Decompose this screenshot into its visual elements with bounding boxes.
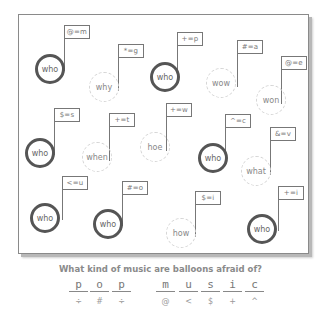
code-flag: @=e xyxy=(281,56,307,70)
answer-letter: p xyxy=(75,278,82,291)
balloon-decoy: wow xyxy=(206,68,236,98)
flag-pole xyxy=(278,199,279,231)
cipher-symbol: < xyxy=(185,297,192,306)
code-flag: #=a xyxy=(237,40,263,54)
answer-letter: s xyxy=(207,278,214,291)
cipher-symbol: @ xyxy=(162,297,170,306)
code-flag: ^=c xyxy=(225,114,251,128)
cipher-symbol: ^ xyxy=(251,297,258,306)
answer-slot: p÷ xyxy=(68,278,89,306)
answer-slot: i+ xyxy=(222,278,243,306)
code-flag: +=p xyxy=(177,32,203,46)
balloon-who: who xyxy=(247,214,277,244)
answer-slot: s$ xyxy=(200,278,221,306)
answer-underline xyxy=(112,291,131,292)
answer-slot: p÷ xyxy=(111,278,132,306)
answer-letter: i xyxy=(229,278,236,291)
balloon-who: who xyxy=(25,138,55,168)
balloon-decoy: why xyxy=(89,72,119,102)
code-flag: $=s xyxy=(54,108,80,122)
balloon-decoy: what xyxy=(241,156,271,186)
code-flag: &=v xyxy=(270,127,296,141)
balloon-decoy: won xyxy=(256,85,286,115)
code-flag: $=i xyxy=(195,191,221,205)
answer-letter: c xyxy=(251,278,258,291)
code-flag: #=o xyxy=(122,181,148,195)
answer-letter: m xyxy=(162,278,169,291)
cipher-symbol: $ xyxy=(208,297,213,306)
code-flag: *=g xyxy=(118,44,144,58)
answer-underline xyxy=(223,291,242,292)
answer-letter: p xyxy=(118,278,125,291)
answer-slot: c^ xyxy=(244,278,265,306)
balloon-decoy: how xyxy=(166,218,196,248)
balloon-decoy: hoe xyxy=(140,132,170,162)
code-flag: @=m xyxy=(64,25,90,39)
answer-underline xyxy=(90,291,109,292)
riddle-question: What kind of music are balloons afraid o… xyxy=(0,264,321,274)
balloon-decoy: when xyxy=(82,142,112,172)
flag-pole xyxy=(237,53,238,87)
cipher-symbol: ÷ xyxy=(75,297,82,306)
code-flag: +=t xyxy=(109,113,135,127)
answer-slot: u< xyxy=(178,278,199,306)
flag-pole xyxy=(62,189,63,220)
balloon-who: who xyxy=(93,209,123,239)
balloon-who: who xyxy=(35,54,65,84)
answer-slot: m@ xyxy=(155,278,176,306)
answer-underline xyxy=(156,291,175,292)
answer-underline xyxy=(179,291,198,292)
answer-underline xyxy=(201,291,220,292)
code-flag: <=u xyxy=(62,176,88,190)
balloon-who: who xyxy=(198,143,228,173)
balloon-who: who xyxy=(150,62,180,92)
answer-letter: o xyxy=(96,278,103,291)
cipher-symbol: ÷ xyxy=(118,297,125,306)
answer-underline xyxy=(245,291,264,292)
cipher-symbol: # xyxy=(96,297,103,306)
balloon-who: who xyxy=(30,203,60,233)
answer-underline xyxy=(69,291,88,292)
cipher-symbol: + xyxy=(229,297,236,306)
code-flag: +=w xyxy=(166,103,192,117)
answer-slot: o# xyxy=(89,278,110,306)
code-flag: +=i xyxy=(278,186,304,200)
answer-letter: u xyxy=(185,278,192,291)
